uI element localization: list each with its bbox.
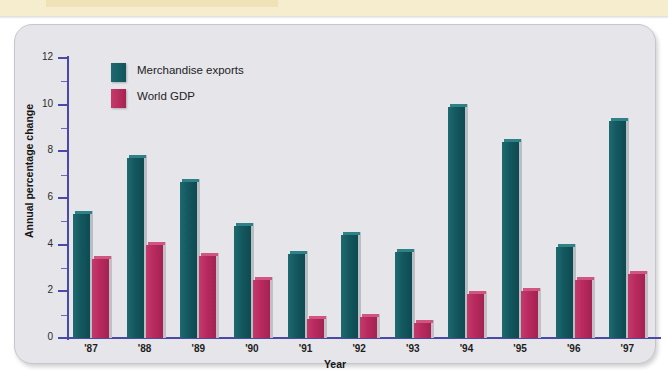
bar-exports-96 [556, 247, 573, 338]
bar-exports-92 [341, 235, 358, 338]
y-minor-tick-7 [61, 175, 67, 176]
y-tick-label: 12 [15, 51, 53, 62]
chart-card: 024681012 '87'88'89'90'91'92'93'94'95'96… [14, 24, 656, 364]
bar-exports-97 [609, 121, 626, 338]
x-tick-label: '97 [605, 343, 649, 354]
bar-exports-90 [234, 226, 251, 338]
legend-swatch-exports [111, 63, 126, 82]
y-axis-title: Annual percentage change [23, 91, 35, 251]
y-minor-tick-5 [61, 221, 67, 222]
bar-exports-87 [73, 214, 90, 338]
banner-accent-strip [46, 0, 278, 7]
y-tick-12 [58, 57, 67, 59]
x-tick-label: '95 [498, 343, 542, 354]
y-tick-4 [58, 244, 67, 246]
x-tick-label: '94 [444, 343, 488, 354]
y-tick-6 [58, 197, 67, 199]
y-minor-tick-9 [61, 128, 67, 129]
bar-gdp-92 [360, 317, 377, 338]
bar-gdp-91 [307, 319, 324, 338]
bar-gdp-93 [414, 323, 431, 338]
y-tick-8 [58, 150, 67, 152]
bar-exports-91 [288, 254, 305, 338]
x-tick-label: '92 [337, 343, 381, 354]
y-minor-tick-3 [61, 268, 67, 269]
bar-gdp-89 [199, 256, 216, 338]
y-minor-tick-1 [61, 315, 67, 316]
bar-exports-94 [448, 107, 465, 338]
y-tick-label: 0 [15, 331, 53, 342]
bar-gdp-88 [146, 245, 163, 338]
y-tick-label: 2 [15, 284, 53, 295]
bar-exports-89 [180, 182, 197, 338]
x-tick-label: '89 [176, 343, 220, 354]
y-tick-0 [58, 337, 67, 339]
x-tick-label: '93 [391, 343, 435, 354]
legend-label-gdp: World GDP [137, 90, 195, 102]
top-banner [0, 0, 668, 16]
y-axis-line [67, 56, 69, 340]
bar-gdp-90 [253, 280, 270, 338]
x-tick-label: '91 [284, 343, 328, 354]
x-tick-label: '96 [552, 343, 596, 354]
bar-gdp-95 [521, 291, 538, 338]
bar-gdp-94 [467, 294, 484, 338]
y-tick-2 [58, 290, 67, 292]
legend-swatch-gdp [111, 89, 126, 108]
bar-gdp-97 [628, 274, 645, 338]
legend-label-exports: Merchandise exports [137, 64, 244, 76]
y-tick-10 [58, 104, 67, 106]
bar-gdp-96 [575, 280, 592, 338]
bar-exports-95 [502, 142, 519, 338]
x-tick-label: '88 [123, 343, 167, 354]
chart-page: 024681012 '87'88'89'90'91'92'93'94'95'96… [0, 0, 668, 371]
bar-gdp-87 [92, 259, 109, 338]
bar-exports-93 [395, 252, 412, 338]
chart-area: 024681012 '87'88'89'90'91'92'93'94'95'96… [15, 25, 655, 363]
x-tick-label: '87 [69, 343, 113, 354]
banner-shadow [0, 16, 668, 19]
bar-exports-88 [127, 158, 144, 338]
x-axis-title: Year [15, 358, 655, 370]
x-tick-label: '90 [230, 343, 274, 354]
y-minor-tick-11 [61, 81, 67, 82]
